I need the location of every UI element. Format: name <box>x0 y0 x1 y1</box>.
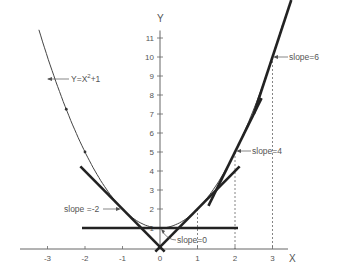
parabola-path <box>39 25 283 228</box>
x-tick-label: 1 <box>195 254 200 263</box>
tangent-lines <box>80 0 291 252</box>
curve-label-tail: +1 <box>91 74 101 84</box>
curve-label-text: Y=X <box>71 74 88 84</box>
x-tick-label: 0 <box>158 254 163 263</box>
curve-point <box>65 108 68 111</box>
x-tick-label: 2 <box>233 254 238 263</box>
svg-text:slope=6: slope=6 <box>289 52 319 62</box>
arrow-head-icon <box>47 77 52 81</box>
annotations: Y X Y=X2+1 slope =-2 slope=0 slope=4 <box>47 13 319 264</box>
y-tick-label: 2 <box>150 205 155 214</box>
slope-m2-label: slope =-2 <box>64 204 121 214</box>
y-tick-label: 9 <box>150 72 155 81</box>
slope-4-label: slope=4 <box>236 146 282 156</box>
slope-6-label: slope=6 <box>273 52 319 62</box>
y-tick-label: 5 <box>150 148 155 157</box>
x-tick-label: 3 <box>270 254 275 263</box>
x-tick-label: -1 <box>119 254 127 263</box>
y-tick-label: 3 <box>150 186 155 195</box>
y-tick-label: 6 <box>150 129 155 138</box>
y-tick-label: 10 <box>145 53 154 62</box>
y-tick-label: 4 <box>150 167 155 176</box>
svg-text:slope=4: slope=4 <box>252 146 282 156</box>
y-tick-label: 8 <box>150 91 155 100</box>
x-axis-title: X <box>289 253 296 264</box>
x-tick-label: -3 <box>44 254 52 263</box>
y-tick-label: 7 <box>150 110 155 119</box>
slope-0-label: slope=0 <box>161 229 207 245</box>
arrow-head-icon <box>161 229 165 234</box>
y-axis-title: Y <box>157 13 164 24</box>
x-tick-label: -2 <box>81 254 89 263</box>
curve-point <box>84 151 87 154</box>
svg-text:slope =-2: slope =-2 <box>64 204 99 214</box>
svg-text:Y=X2+1: Y=X2+1 <box>71 73 101 84</box>
tangent-slope-diagram: -3-2-101231234567891011 Y X Y=X2+1 slope… <box>0 0 339 279</box>
parabola-curve <box>39 25 283 228</box>
y-tick-label: 11 <box>146 34 155 43</box>
svg-text:slope=0: slope=0 <box>177 235 207 245</box>
